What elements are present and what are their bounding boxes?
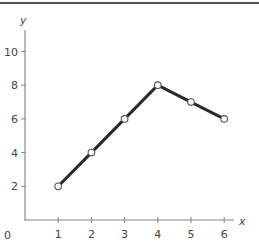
- y-axis-label: y: [19, 14, 27, 27]
- y-tick-label: 10: [4, 46, 18, 59]
- data-point-marker: [188, 99, 195, 106]
- line-chart: 123456246810 x y 0: [0, 0, 259, 247]
- x-tick-label: 2: [88, 228, 95, 241]
- data-point-marker: [155, 82, 162, 89]
- data-point-marker: [55, 183, 62, 190]
- x-tick-label: 4: [154, 228, 161, 241]
- x-axis-label: x: [238, 215, 246, 228]
- series-line: [58, 85, 224, 186]
- y-tick-label: 4: [11, 147, 18, 160]
- data-point-marker: [88, 149, 95, 156]
- y-tick-label: 8: [11, 79, 18, 92]
- data-point-marker: [121, 116, 128, 123]
- data-line: [58, 85, 224, 186]
- x-tick-label: 3: [121, 228, 128, 241]
- x-tick-label: 6: [221, 228, 228, 241]
- data-point-marker: [221, 116, 228, 123]
- x-tick-label: 1: [55, 228, 62, 241]
- y-tick-label: 2: [11, 180, 18, 193]
- ticks: 123456246810: [4, 46, 228, 242]
- y-tick-label: 6: [11, 113, 18, 126]
- data-markers: [55, 82, 228, 190]
- x-tick-label: 5: [188, 228, 195, 241]
- origin-label: 0: [4, 229, 11, 242]
- axes: [25, 30, 234, 221]
